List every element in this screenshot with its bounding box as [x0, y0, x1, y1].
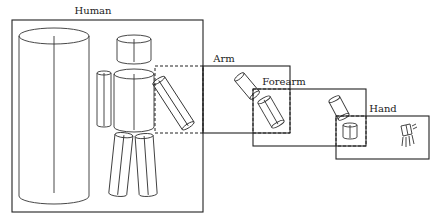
hand-label: Hand [369, 103, 397, 114]
head-cylinder-icon [117, 35, 151, 64]
hand-icon [401, 124, 417, 147]
forearm-label: Forearm [262, 76, 306, 87]
arm-label: Arm [212, 53, 235, 64]
arm-panel: Arm [203, 53, 290, 133]
human-label: Human [74, 5, 112, 16]
upper-arm-cylinder-icon [233, 71, 260, 100]
torso-cylinder-icon [114, 69, 154, 132]
hierarchy-diagram: Human [0, 0, 438, 224]
human-panel: Human [12, 5, 203, 212]
forearm-cylinder-icon [257, 95, 285, 130]
left-leg-cylinder-icon [109, 132, 134, 198]
left-arm-cylinder-icon [97, 71, 111, 127]
body-cylinder-icon [19, 28, 89, 204]
right-arm-cylinder-icon [152, 75, 195, 131]
wrist-cylinder-icon [343, 123, 357, 139]
forearm-segment-cylinder-icon [328, 95, 350, 122]
human-frame [12, 20, 203, 212]
right-leg-cylinder-icon [135, 133, 157, 197]
